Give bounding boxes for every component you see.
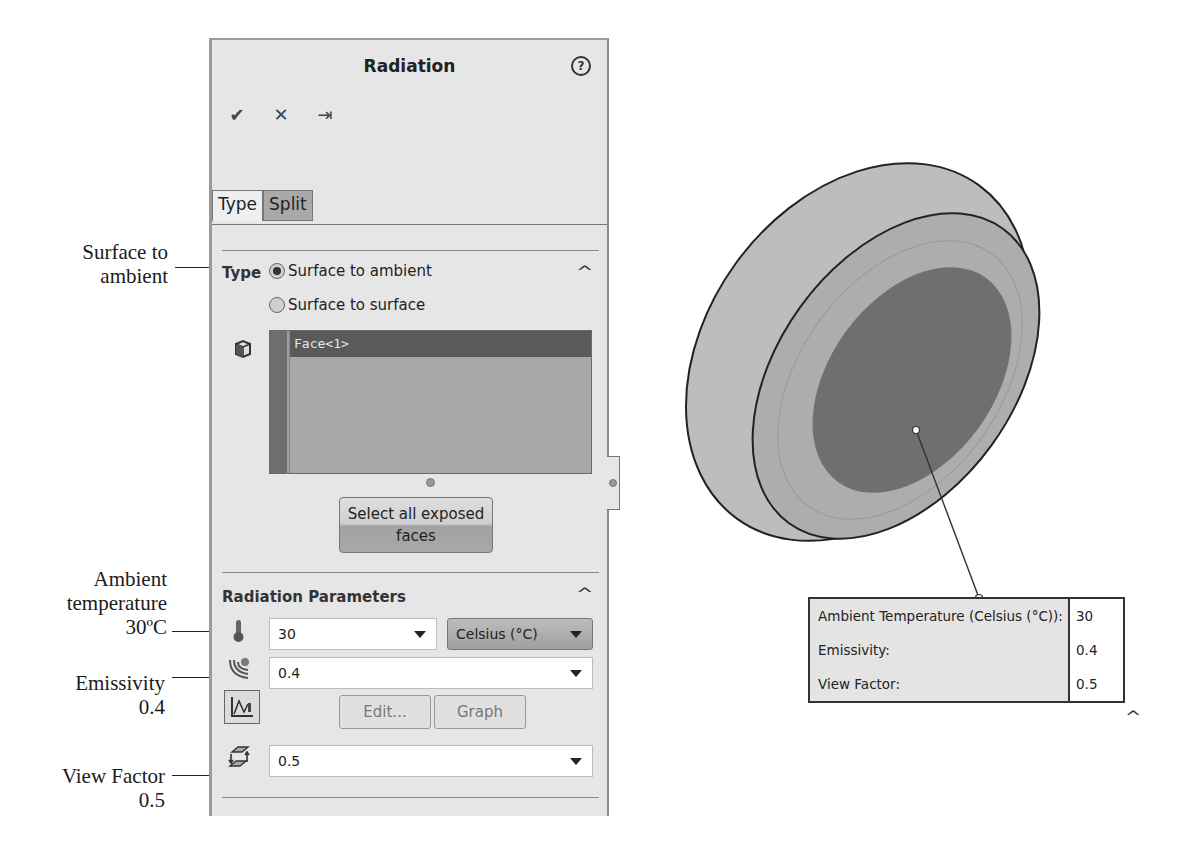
annotation-label: Ambient Temperature (Celsius (°C)): bbox=[810, 599, 1068, 633]
annotation-label: Emissivity: bbox=[810, 633, 1068, 667]
annotation-labels: Ambient Temperature (Celsius (°C)): Emis… bbox=[810, 599, 1070, 701]
annotation-values: 30 0.4 0.5 bbox=[1070, 599, 1123, 701]
annotation-value: 30 bbox=[1070, 599, 1123, 633]
radiation-annotation-table[interactable]: Ambient Temperature (Celsius (°C)): Emis… bbox=[808, 597, 1125, 703]
model-viewport[interactable] bbox=[0, 0, 1196, 858]
annotation-value: 0.4 bbox=[1070, 633, 1123, 667]
annotation-collapse-chevron-icon[interactable]: ^ bbox=[1125, 708, 1141, 726]
annotation-label: View Factor: bbox=[810, 667, 1068, 701]
leader-anchor[interactable] bbox=[913, 427, 920, 434]
cylindrical-part-model bbox=[615, 97, 1101, 608]
annotation-value: 0.5 bbox=[1070, 667, 1123, 701]
